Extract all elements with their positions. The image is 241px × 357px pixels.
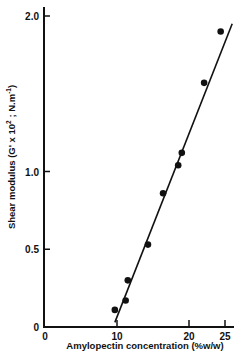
regression-line [115,24,232,323]
x-axis-label: Amylopectin concentration (%w/w) [66,340,223,351]
fit-line [115,24,232,323]
chart: 010202500.51.02.0 Amylopectin concentrat… [0,0,241,357]
axes [43,7,234,328]
data-point [179,150,186,157]
data-point [175,162,182,169]
data-point [122,297,129,304]
data-point [201,80,208,87]
data-point [112,307,119,314]
y-axis-label-close: ) [6,85,17,88]
x-tick-label: 0 [42,331,48,342]
data-point [125,277,132,284]
y-axis-label-main: Shear modulus (G' x 10 [6,124,17,229]
y-tick-label: 2.0 [25,11,39,22]
data-point [145,241,152,248]
y-axis-label-unit: ; N.m [6,94,17,120]
ticks: 010202500.51.02.0 [25,11,231,342]
data-point [160,190,167,197]
y-axis-label: Shear modulus (G' x 102 ; N.m-1) [5,85,17,229]
y-tick-label: 1.0 [25,167,39,178]
y-tick-label: 0 [33,322,39,333]
data-point [217,28,224,35]
y-tick-label: 0.5 [25,244,39,255]
data-points [112,28,224,313]
